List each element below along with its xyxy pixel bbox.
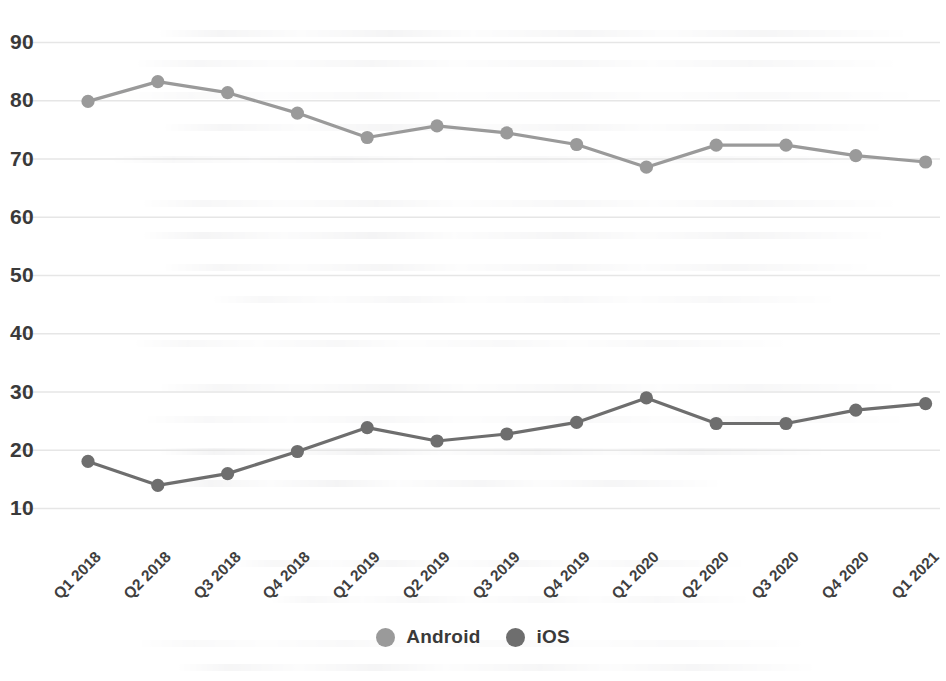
legend-item-ios[interactable]: iOS xyxy=(506,626,569,648)
line-chart: 908070605040302010 Q1 2018Q2 2018Q3 2018… xyxy=(0,0,946,681)
x-axis-tick-label: Q3 2020 xyxy=(748,548,803,603)
legend-label: iOS xyxy=(536,626,569,648)
x-axis-tick-label: Q4 2020 xyxy=(818,548,873,603)
x-axis-tick-label: Q2 2020 xyxy=(678,548,733,603)
x-axis-tick-label: Q1 2018 xyxy=(50,548,105,603)
x-axis-tick-label: Q3 2018 xyxy=(190,548,245,603)
x-axis-tick-label: Q4 2019 xyxy=(539,548,594,603)
x-axis: Q1 2018Q2 2018Q3 2018Q4 2018Q1 2019Q2 20… xyxy=(0,0,946,681)
x-axis-tick-label: Q3 2019 xyxy=(469,548,524,603)
x-axis-tick-label: Q4 2018 xyxy=(259,548,314,603)
legend-item-android[interactable]: Android xyxy=(376,626,480,648)
x-axis-tick-label: Q2 2018 xyxy=(120,548,175,603)
x-axis-tick-label: Q1 2019 xyxy=(329,548,384,603)
x-axis-tick-label: Q2 2019 xyxy=(399,548,454,603)
x-axis-tick-label: Q1 2020 xyxy=(608,548,663,603)
legend-label: Android xyxy=(406,626,480,648)
x-axis-tick-label: Q1 2021 xyxy=(888,548,943,603)
chart-legend: AndroidiOS xyxy=(0,626,946,648)
legend-swatch-circle-icon xyxy=(376,628,395,647)
legend-swatch-circle-icon xyxy=(506,628,525,647)
